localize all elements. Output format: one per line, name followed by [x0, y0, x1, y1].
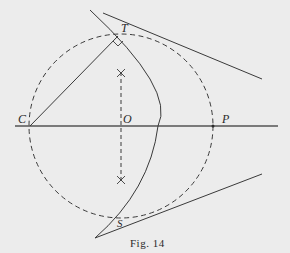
- label-s: S: [117, 218, 123, 229]
- label-c: C: [18, 113, 26, 125]
- label-o: O: [123, 113, 132, 125]
- point-p-dot: [212, 125, 215, 128]
- label-p: P: [222, 113, 229, 125]
- geometry-figure: [0, 0, 290, 253]
- figure-caption: Fig. 14: [130, 238, 165, 249]
- segment-ct: [30, 36, 118, 126]
- label-t: T: [121, 22, 128, 34]
